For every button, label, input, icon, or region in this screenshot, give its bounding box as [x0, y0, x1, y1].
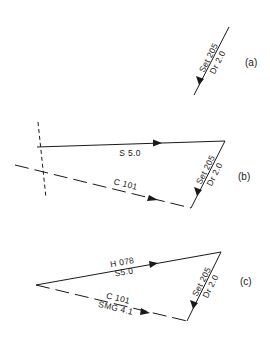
arrow-icon: [153, 140, 162, 147]
reference-line-b: [38, 122, 46, 198]
speed-label-b: S 5.0: [119, 148, 140, 158]
speed-vector-b: [37, 141, 225, 147]
arrow-icon: [147, 195, 158, 201]
part-c: H 078 S5.0 Set 205 Dr 2.0 C 101 SMG 4.1 …: [36, 252, 252, 321]
arrow-icon: [140, 308, 150, 315]
vector-diagram: Set 205 Dr 2.0 (a) S 5.0 Set 205 Dr 2.0 …: [0, 0, 270, 340]
part-label-c: (c): [240, 276, 252, 287]
part-label-b: (b): [238, 171, 250, 182]
arrow-icon: [149, 261, 158, 268]
part-a: Set 205 Dr 2.0 (a): [194, 27, 257, 95]
part-label-a: (a): [245, 57, 257, 68]
speed-label-c: S5.0: [114, 265, 134, 278]
course-vector-b: [15, 165, 191, 208]
part-b: S 5.0 Set 205 Dr 2.0 C 101 (b): [15, 122, 250, 208]
